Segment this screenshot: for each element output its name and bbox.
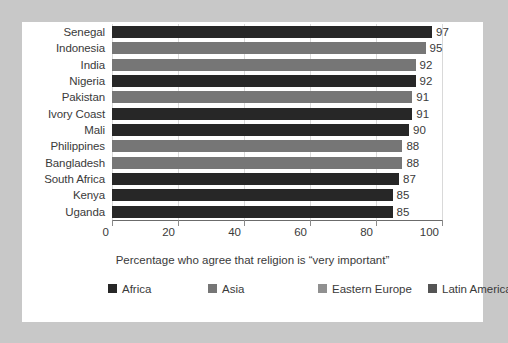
x-tick-label: 20 [162, 226, 178, 238]
category-label: Philippines [50, 140, 105, 152]
category-label: Ivory Coast [48, 108, 105, 120]
bar-row: Bangladesh88 [112, 155, 442, 171]
category-label: Mali [84, 124, 105, 136]
bar-row: Kenya85 [112, 187, 442, 203]
x-tick-mark [244, 220, 245, 226]
category-label: Indonesia [56, 42, 105, 54]
bar-row: South Africa87 [112, 171, 442, 187]
bar [112, 140, 402, 152]
x-tick-mark [310, 220, 311, 226]
bar-row: Philippines88 [112, 138, 442, 154]
x-tick-mark [178, 220, 179, 226]
category-label: Bangladesh [45, 157, 105, 169]
x-tick-mark [442, 220, 443, 226]
bar-value-label: 87 [403, 173, 416, 185]
chart-card: Senegal97Indonesia95India92Nigeria92Paki… [22, 22, 483, 322]
legend-item: Eastern Europe [318, 283, 428, 295]
category-label: Kenya [73, 189, 105, 201]
category-label: South Africa [44, 173, 105, 185]
bar-value-label: 97 [436, 26, 449, 38]
bar [112, 26, 432, 38]
bar-row: Pakistan91 [112, 89, 442, 105]
x-axis-title: Percentage who agree that religion is “v… [22, 254, 483, 266]
x-tick-label: 0 [103, 226, 112, 238]
bar-rows: Senegal97Indonesia95India92Nigeria92Paki… [112, 24, 442, 220]
bar [112, 124, 409, 136]
bar [112, 59, 416, 71]
x-tick-label: 80 [360, 226, 376, 238]
bar-row: India92 [112, 57, 442, 73]
bar [112, 91, 412, 103]
bar-value-label: 95 [430, 42, 443, 54]
category-label: Pakistan [62, 91, 105, 103]
bar-value-label: 88 [406, 157, 419, 169]
bar-row: Nigeria92 [112, 73, 442, 89]
bar-value-label: 85 [397, 189, 410, 201]
category-label: Uganda [65, 206, 105, 218]
bar [112, 173, 399, 185]
legend-item: Latin America [428, 283, 508, 295]
plot-area: Senegal97Indonesia95India92Nigeria92Paki… [112, 24, 442, 220]
bar [112, 206, 393, 218]
legend-item: Asia [208, 283, 318, 295]
category-label: India [81, 59, 105, 71]
legend-item: Africa [108, 283, 208, 295]
legend-label: Asia [222, 283, 244, 295]
bar-value-label: 88 [406, 140, 419, 152]
legend-label: Latin America [442, 283, 508, 295]
category-label: Senegal [63, 26, 105, 38]
bar-value-label: 91 [416, 91, 429, 103]
legend-label: Africa [122, 283, 151, 295]
bar-row: Senegal97 [112, 24, 442, 40]
chart-legend: AfricaAsiaEastern EuropeLatin AmericaNor… [108, 280, 428, 297]
legend-swatch-icon [428, 284, 437, 293]
x-tick-mark [376, 220, 377, 226]
bar-row: Ivory Coast91 [112, 106, 442, 122]
x-axis-ticks: 020406080100 [112, 220, 442, 242]
bar-row: Mali90 [112, 122, 442, 138]
category-label: Nigeria [69, 75, 105, 87]
bar-value-label: 92 [420, 59, 433, 71]
bar [112, 42, 426, 54]
bar [112, 108, 412, 120]
x-tick-label: 100 [420, 226, 442, 238]
bar-row: Uganda85 [112, 204, 442, 220]
bar-value-label: 90 [413, 124, 426, 136]
bar-value-label: 92 [420, 75, 433, 87]
legend-label: Eastern Europe [332, 283, 412, 295]
x-tick-label: 40 [228, 226, 244, 238]
bar-row: Indonesia95 [112, 40, 442, 56]
legend-swatch-icon [108, 284, 117, 293]
x-tick-mark [112, 220, 113, 226]
bar [112, 75, 416, 87]
bar [112, 157, 402, 169]
bar-value-label: 91 [416, 108, 429, 120]
legend-swatch-icon [318, 284, 327, 293]
bar [112, 189, 393, 201]
x-tick-label: 60 [294, 226, 310, 238]
bar-value-label: 85 [397, 206, 410, 218]
legend-swatch-icon [208, 284, 217, 293]
